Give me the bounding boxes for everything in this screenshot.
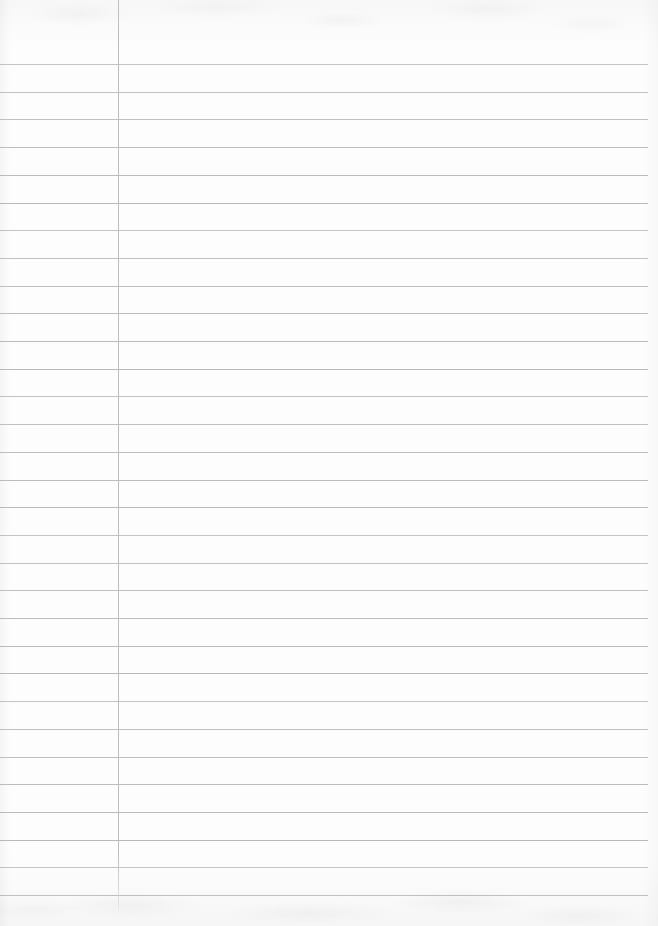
rule-line xyxy=(0,480,648,481)
rule-line xyxy=(0,840,648,841)
margin-rule-line xyxy=(118,0,119,915)
notebook-page xyxy=(0,0,658,926)
rule-line xyxy=(0,92,648,93)
rule-line xyxy=(0,757,648,758)
rule-line xyxy=(0,895,648,896)
rule-line xyxy=(0,867,648,868)
rule-line xyxy=(0,286,648,287)
rule-line xyxy=(0,258,648,259)
rule-line xyxy=(0,729,648,730)
rule-line xyxy=(0,563,648,564)
rule-line xyxy=(0,119,648,120)
rule-line xyxy=(0,175,648,176)
rule-line xyxy=(0,784,648,785)
rule-line xyxy=(0,701,648,702)
rule-line xyxy=(0,452,648,453)
rule-line xyxy=(0,64,648,65)
rule-line xyxy=(0,618,648,619)
rule-line xyxy=(0,230,648,231)
rule-line xyxy=(0,313,648,314)
rule-line xyxy=(0,147,648,148)
rule-line xyxy=(0,369,648,370)
rule-line xyxy=(0,646,648,647)
rule-line xyxy=(0,673,648,674)
rule-line xyxy=(0,424,648,425)
rule-line xyxy=(0,203,648,204)
rule-line xyxy=(0,590,648,591)
rule-line xyxy=(0,812,648,813)
rule-line xyxy=(0,396,648,397)
rule-line xyxy=(0,341,648,342)
rule-line xyxy=(0,535,648,536)
rule-line xyxy=(0,507,648,508)
ruled-lines-group xyxy=(0,0,658,926)
